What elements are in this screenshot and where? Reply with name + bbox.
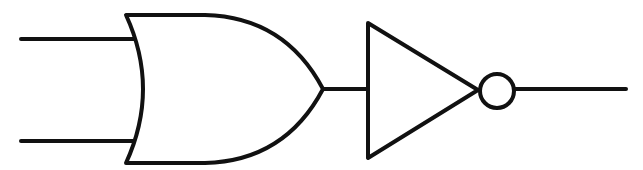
not-gate xyxy=(368,23,478,158)
inversion-bubble xyxy=(480,74,514,108)
logic-circuit-diagram xyxy=(0,0,643,170)
or-gate xyxy=(126,15,323,163)
